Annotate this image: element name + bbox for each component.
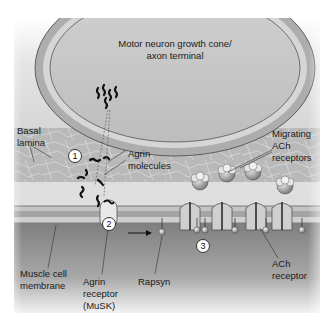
basal-lamina-label: Basal lamina (17, 125, 45, 149)
ach-receptor-label: ACh receptor (272, 258, 307, 282)
neuromuscular-junction-diagram: Motor neuron growth cone/ axon terminal … (0, 0, 332, 336)
axon-terminal-label: Motor neuron growth cone/ axon terminal (110, 38, 240, 62)
agrin-receptor-label: Agrin receptor (MuSK) (83, 276, 118, 312)
agrin-molecules-label: Agrin molecules (128, 148, 171, 172)
migrating-ach-receptors-label: Migrating ACh receptors (272, 128, 312, 164)
step-2-marker: 2 (102, 217, 116, 231)
rapsyn-label: Rapsyn (138, 276, 170, 288)
muscle-cell-membrane-label: Muscle cell membrane (20, 268, 67, 292)
step-1-marker: 1 (68, 149, 82, 163)
step-3-marker: 3 (196, 239, 210, 253)
